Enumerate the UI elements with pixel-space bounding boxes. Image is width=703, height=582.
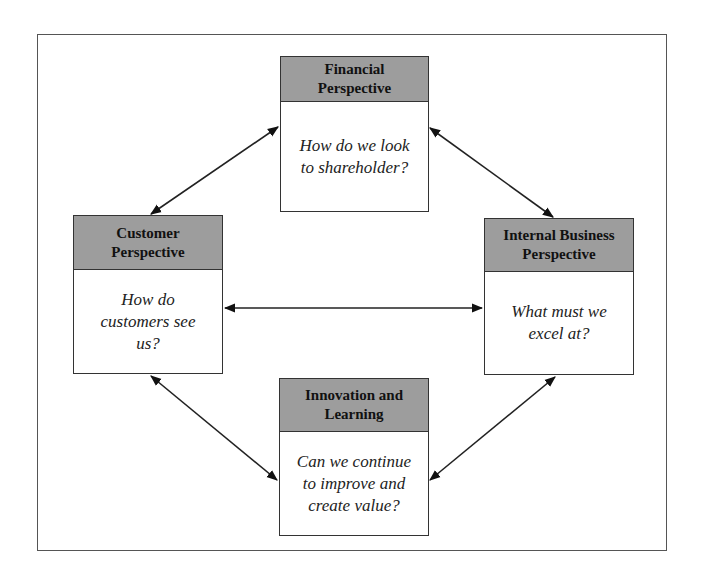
header-line: Internal Business — [503, 226, 614, 245]
question-line: How do we look — [299, 135, 409, 157]
box-question: Can we continue to improve and create va… — [280, 432, 428, 535]
question-line: to shareholder? — [301, 157, 409, 179]
header-line: Innovation and — [305, 386, 403, 405]
header-line: Customer — [116, 224, 179, 243]
question-line: What must we — [511, 301, 606, 323]
internal-business-perspective-box: Internal Business Perspective What must … — [484, 218, 634, 375]
question-line: Can we continue — [297, 451, 411, 473]
header-line: Perspective — [318, 79, 391, 98]
innovation-learning-box: Innovation and Learning Can we continue … — [279, 378, 429, 536]
financial-perspective-box: Financial Perspective How do we look to … — [280, 56, 429, 212]
box-header: Internal Business Perspective — [485, 219, 633, 272]
box-question: How do customers see us? — [74, 270, 222, 373]
arrow-innovation-internal — [430, 377, 555, 480]
arrow-customer-innovation — [151, 376, 277, 480]
arrow-financial-internal — [430, 128, 553, 217]
box-question: How do we look to shareholder? — [281, 102, 428, 211]
header-line: Financial — [324, 60, 384, 79]
customer-perspective-box: Customer Perspective How do customers se… — [73, 215, 223, 374]
question-line: excel at? — [529, 323, 590, 345]
box-question: What must we excel at? — [485, 272, 633, 374]
question-line: to improve and — [303, 473, 405, 495]
header-line: Perspective — [522, 245, 595, 264]
header-line: Learning — [324, 405, 383, 424]
question-line: How do — [121, 289, 174, 311]
box-header: Innovation and Learning — [280, 379, 428, 432]
arrow-customer-financial — [151, 127, 278, 214]
question-line: us? — [136, 333, 160, 355]
box-header: Financial Perspective — [281, 57, 428, 102]
question-line: customers see — [101, 311, 196, 333]
question-line: create value? — [308, 495, 399, 517]
header-line: Perspective — [111, 243, 184, 262]
box-header: Customer Perspective — [74, 216, 222, 270]
